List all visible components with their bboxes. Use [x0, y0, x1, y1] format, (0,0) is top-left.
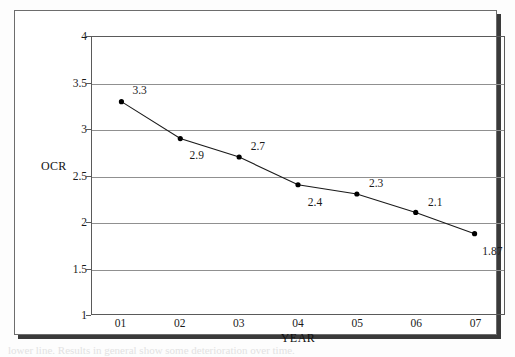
y-axis-tick-mark [86, 315, 91, 316]
chart-plot-area: 3.32.92.72.42.32.11.87 [91, 36, 505, 315]
x-axis-tick-label: 06 [411, 317, 423, 329]
x-axis-tick-label: 07 [470, 317, 482, 329]
x-axis-tick-label: 04 [292, 317, 304, 329]
data-point-marker [472, 231, 477, 236]
x-axis-tick-label: 05 [351, 317, 363, 329]
y-axis-tick-mark [86, 176, 91, 177]
data-point-value-label: 2.3 [369, 177, 383, 189]
y-axis-tick-mark [86, 36, 91, 37]
y-axis-tick-mark [86, 222, 91, 223]
data-point-marker [295, 182, 300, 187]
data-point-marker [354, 191, 359, 196]
y-axis-tick-label: 1.5 [73, 263, 87, 275]
data-point-marker [119, 99, 124, 104]
data-point-marker [178, 136, 183, 141]
data-series-line [121, 102, 474, 234]
figure-frame: OCR 11.522.533.54 3.32.92.72.42.32.11.87… [14, 10, 497, 335]
y-axis-tick-label: 2.5 [73, 170, 87, 182]
x-axis-tick-label: 02 [174, 317, 186, 329]
data-point-value-label: 2.1 [428, 196, 442, 208]
chart-data-svg [92, 37, 504, 314]
y-axis-tick-labels: 11.522.533.54 [55, 36, 87, 315]
data-point-value-label: 1.87 [482, 245, 502, 257]
data-point-value-label: 3.3 [132, 84, 146, 96]
data-point-value-label: 2.4 [308, 196, 322, 208]
y-axis-tick-label: 3.5 [73, 77, 87, 89]
x-axis-tick-label: 03 [233, 317, 245, 329]
data-point-marker [413, 210, 418, 215]
y-axis-tick-mark [86, 83, 91, 84]
data-point-value-label: 2.9 [190, 149, 204, 161]
x-axis-tick-labels: 01020304050607 [91, 317, 505, 331]
y-axis-tick-mark [86, 269, 91, 270]
x-axis-tick-label: 01 [115, 317, 127, 329]
data-point-marker [237, 154, 242, 159]
y-axis-tick-mark [86, 129, 91, 130]
data-point-value-label: 2.7 [251, 140, 265, 152]
cut-off-caption-text: lower line. Results in general show some… [8, 344, 508, 356]
